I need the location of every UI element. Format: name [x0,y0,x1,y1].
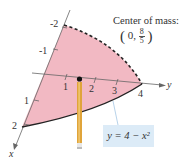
x-tick-label: 1 [24,95,29,106]
center-of-mass-coordinates: ( 0, 8 5 ) [120,28,153,45]
leader-line [113,101,118,125]
open-paren: ( [120,28,125,44]
coord-x: 0, [128,29,136,41]
pencil-icon [77,82,82,149]
fraction-denominator: 5 [139,37,145,45]
y-tick-label: 3 [112,85,117,96]
y-tick-label: 2 [89,83,94,94]
equation-label: y = 4 − x² [103,125,154,147]
y-axis-label: y [166,79,172,90]
center-of-mass-title: Center of mass: [111,15,181,27]
x-tick-label: -2 [50,18,58,29]
x-axis-label: x [8,148,14,159]
y-tick-label: 4 [138,88,143,99]
x-tick-label: 2 [12,120,17,131]
y-tick-label: 1 [63,81,68,92]
y-axis-arrow [159,83,166,88]
x-axis-arrow [13,143,18,150]
x-tick-label: -1 [39,45,47,56]
close-paren: ) [148,28,153,44]
coord-y-fraction: 8 5 [139,28,145,45]
center-of-mass-point [77,76,82,81]
